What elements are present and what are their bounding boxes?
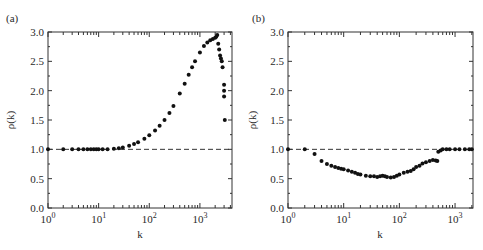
data-point-a bbox=[117, 146, 121, 150]
data-point-a bbox=[190, 65, 194, 69]
ytick-label-b: 3.0 bbox=[270, 26, 284, 38]
data-point-a bbox=[187, 73, 191, 77]
data-point-b bbox=[286, 147, 290, 151]
data-point-a bbox=[158, 124, 162, 128]
xtick-label-base: 10 bbox=[448, 213, 460, 225]
xtick-label-exponent: 2 bbox=[403, 211, 407, 220]
data-point-a bbox=[217, 48, 221, 52]
data-point-a bbox=[171, 104, 175, 108]
data-point-a bbox=[163, 118, 167, 122]
data-point-b bbox=[463, 147, 467, 151]
panel-a: (a) ρ(k) k 0.00.51.01.52.02.53.010010110… bbox=[4, 12, 232, 240]
data-point-b bbox=[402, 171, 406, 175]
plot-frame-a bbox=[48, 32, 232, 208]
ytick-label-a: 2.5 bbox=[30, 55, 44, 67]
data-point-b bbox=[329, 164, 333, 168]
data-point-a bbox=[132, 142, 136, 146]
xtick-label-base: 10 bbox=[41, 213, 53, 225]
data-point-a bbox=[198, 51, 202, 55]
xtick-label-exponent: 1 bbox=[347, 211, 351, 220]
data-point-a bbox=[46, 147, 50, 151]
data-point-b bbox=[435, 159, 439, 163]
ytick-label-a: 1.5 bbox=[30, 114, 44, 126]
data-point-a bbox=[70, 147, 74, 151]
xlabel-a: k bbox=[137, 228, 143, 240]
xtick-label-exponent: 1 bbox=[102, 211, 106, 220]
xtick-label-b: 103 bbox=[448, 211, 463, 225]
plot-frame-b bbox=[288, 32, 473, 208]
figure: (a) ρ(k) k 0.00.51.01.52.02.53.010010110… bbox=[0, 0, 483, 250]
xtick-label-base: 10 bbox=[192, 213, 204, 225]
data-point-b bbox=[303, 147, 307, 151]
data-point-a bbox=[121, 146, 125, 150]
ytick-label-a: 0.5 bbox=[30, 173, 44, 185]
data-point-a bbox=[222, 83, 226, 87]
xtick-label-a: 101 bbox=[91, 211, 106, 225]
xtick-label-exponent: 3 bbox=[203, 211, 207, 220]
data-point-a bbox=[153, 129, 157, 133]
ytick-label-a: 2.0 bbox=[30, 85, 44, 97]
panel-label-a: (a) bbox=[6, 12, 19, 25]
xtick-label-a: 102 bbox=[142, 211, 157, 225]
xtick-label-exponent: 3 bbox=[459, 211, 463, 220]
data-point-b bbox=[470, 147, 474, 151]
data-point-a bbox=[221, 65, 225, 69]
ytick-label-a: 1.0 bbox=[30, 143, 44, 155]
data-point-b bbox=[368, 174, 372, 178]
xtick-label-b: 100 bbox=[281, 211, 296, 225]
ytick-label-a: 3.0 bbox=[30, 26, 44, 38]
data-point-a bbox=[61, 147, 65, 151]
data-point-b bbox=[313, 152, 317, 156]
data-point-a bbox=[167, 111, 171, 115]
data-point-a bbox=[216, 42, 220, 46]
xtick-label-b: 101 bbox=[336, 211, 351, 225]
data-point-a bbox=[101, 147, 105, 151]
data-point-a bbox=[142, 137, 146, 141]
data-point-a bbox=[136, 140, 140, 144]
xtick-label-exponent: 0 bbox=[52, 211, 56, 220]
data-point-a bbox=[222, 95, 226, 99]
panel-label-b: (b) bbox=[252, 12, 265, 25]
xtick-label-base: 10 bbox=[91, 213, 103, 225]
data-point-a bbox=[220, 59, 224, 63]
xtick-label-base: 10 bbox=[281, 213, 293, 225]
data-point-b bbox=[397, 173, 401, 177]
data-point-a bbox=[97, 147, 101, 151]
xtick-label-base: 10 bbox=[336, 213, 348, 225]
data-point-a bbox=[215, 33, 219, 37]
data-point-a bbox=[183, 82, 187, 86]
xlabel-b: k bbox=[377, 228, 383, 240]
data-point-b bbox=[320, 159, 324, 163]
data-point-b bbox=[424, 160, 428, 164]
panel-b: (b) ρ(k) k 0.00.51.01.52.02.53.010010110… bbox=[246, 12, 474, 240]
data-point-b bbox=[364, 174, 368, 178]
data-point-a bbox=[81, 147, 85, 151]
data-point-a bbox=[202, 44, 206, 48]
data-point-a bbox=[222, 89, 226, 93]
data-point-b bbox=[358, 173, 362, 177]
ylabel-a: ρ(k) bbox=[4, 111, 17, 130]
data-point-a bbox=[193, 59, 197, 63]
ytick-label-b: 1.0 bbox=[270, 143, 284, 155]
xtick-label-base: 10 bbox=[142, 213, 154, 225]
data-point-b bbox=[420, 161, 424, 165]
data-point-a bbox=[127, 144, 131, 148]
data-point-a bbox=[147, 133, 151, 137]
data-point-b bbox=[457, 147, 461, 151]
data-point-b bbox=[441, 147, 445, 151]
data-point-b bbox=[453, 147, 457, 151]
data-point-a bbox=[223, 118, 227, 122]
xtick-label-base: 10 bbox=[392, 213, 404, 225]
ytick-label-b: 2.0 bbox=[270, 85, 284, 97]
xtick-label-exponent: 0 bbox=[292, 211, 296, 220]
data-point-b bbox=[325, 162, 329, 166]
data-point-a bbox=[178, 92, 182, 96]
data-point-a bbox=[76, 147, 80, 151]
ytick-label-b: 2.5 bbox=[270, 55, 284, 67]
xtick-label-a: 103 bbox=[192, 211, 207, 225]
data-point-b bbox=[346, 168, 350, 172]
ytick-label-b: 0.5 bbox=[270, 173, 284, 185]
xtick-label-a: 100 bbox=[41, 211, 56, 225]
data-point-a bbox=[106, 147, 110, 151]
data-point-a bbox=[112, 147, 116, 151]
